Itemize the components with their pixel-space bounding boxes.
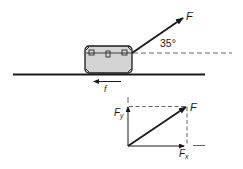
friction-label: f — [104, 84, 108, 94]
angle-label: 35° — [160, 37, 176, 49]
resultant-label: F — [190, 101, 198, 113]
trunk — [85, 46, 132, 73]
fy-label: Fy — [114, 107, 124, 120]
fx-label: Fx — [179, 148, 189, 160]
force-label: F — [186, 10, 194, 22]
resultant-arrow — [128, 107, 186, 146]
force-diagram: F 35° f F Fy Fx — [0, 0, 243, 169]
